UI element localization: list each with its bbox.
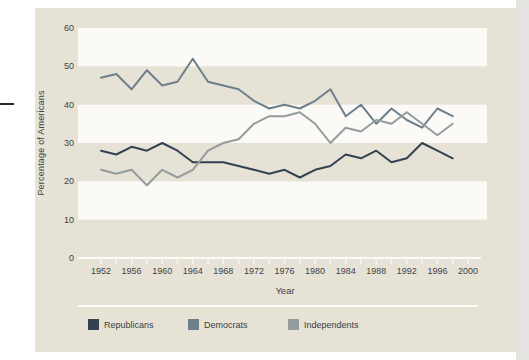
margin-callout-dash — [0, 103, 14, 105]
page-edge-strip — [516, 0, 529, 360]
y-tick-label-40: 40 — [44, 100, 74, 110]
y-tick-label-50: 50 — [44, 61, 74, 71]
x-axis-title: Year — [265, 285, 305, 296]
y-tick-label-10: 10 — [44, 215, 74, 225]
y-tick-label-20: 20 — [44, 176, 74, 186]
legend-separator-line — [78, 305, 478, 307]
y-tick-label-30: 30 — [44, 138, 74, 148]
y-tick-label-60: 60 — [44, 23, 74, 33]
scanned-page: Percentage of Americans 0102030405060 19… — [0, 0, 529, 360]
figure-panel — [35, 8, 516, 352]
y-tick-label-0: 0 — [44, 253, 74, 263]
x-tick-label-2000: 2000 — [450, 266, 486, 276]
